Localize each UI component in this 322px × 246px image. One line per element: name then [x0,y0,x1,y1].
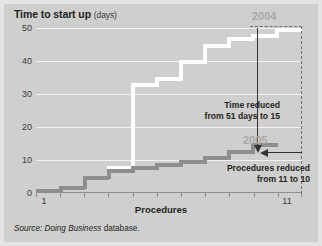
annotation-time-line2: from 51 days to 15 [205,111,280,122]
x-tick [278,193,279,197]
series-2004-segment [155,77,181,81]
series-2005-segment [179,160,205,164]
gridline-20 [36,127,302,128]
series-2004-segment [179,60,205,64]
y-tick-20: 20 [6,122,32,132]
x-tick [133,193,134,197]
y-tick-0: 0 [6,188,32,198]
x-tick [60,193,61,197]
x-axis-line [36,192,302,194]
x-tick [157,193,158,197]
x-tick [229,193,230,197]
series-2005-segment [83,176,109,180]
source-note: Source: Doing Business database. [14,224,140,233]
source-prefix: Source: [14,224,42,233]
annotation-procedures-line2: from 11 to 10 [227,174,310,185]
procedure-reduction-arrow-icon [268,152,302,153]
series-2004-segment [203,44,229,48]
y-tick-50: 50 [6,23,32,33]
annotation-procedures-reduced: Procedures reduced from 11 to 10 [227,163,310,184]
x-tick [205,193,206,197]
series-2005-segment [59,186,85,190]
chart-figure: Time to start up (days) 50 40 30 20 10 0 [0,0,322,246]
y-tick-10: 10 [6,155,32,165]
gridline-40 [36,61,302,62]
series-2005-segment [227,150,253,154]
x-tick [108,193,109,197]
gridline-50 [36,28,302,29]
series-label-2004: 2004 [252,10,276,22]
annotation-time-line1: Time reduced [205,100,280,111]
gridline-10 [36,160,302,161]
gridline-30 [36,94,302,95]
x-axis-title: Procedures [0,204,322,215]
x-tick [36,193,37,197]
series-2004-segment [251,34,277,38]
chart-title-units: (days) [94,10,117,20]
x-tick [254,193,255,197]
series-label-2005: 2005 [243,134,267,146]
series-2004-segment [227,37,253,41]
annotation-procedures-line1: Procedures reduced [227,163,310,174]
y-tick-40: 40 [6,56,32,66]
x-tick [181,193,182,197]
x-tick [84,193,85,197]
time-reduction-arrow-icon [257,28,258,146]
page-title: Time to start up (days) [14,8,117,20]
series-2005-segment [155,163,181,167]
series-2005-segment [107,169,133,173]
series-2004-riser [131,83,135,170]
series-2005-segment [131,166,157,170]
source-suffix: database. [104,224,140,233]
chart-title-main: Time to start up [14,8,91,20]
y-tick-30: 30 [6,89,32,99]
annotation-time-reduced: Time reduced from 51 days to 15 [205,100,280,121]
series-2004-segment [275,28,302,32]
series-2005-segment [203,156,229,160]
series-2004-segment [131,83,157,87]
dashed-boundary-line-horizontal [250,26,302,27]
source-database-name: Doing Business [45,224,102,233]
